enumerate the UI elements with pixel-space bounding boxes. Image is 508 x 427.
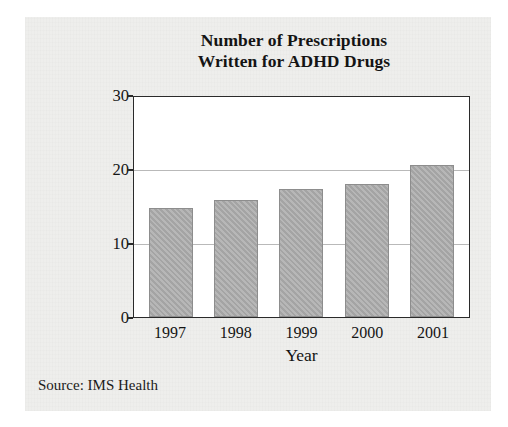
x-axis-title: Year — [133, 345, 470, 366]
x-tick-label-1998: 1998 — [214, 324, 258, 342]
bar-1997 — [149, 208, 193, 317]
y-tick-label-30: 30 — [95, 86, 129, 106]
chart-screenshot: Number of Prescriptions Written for ADHD… — [0, 0, 508, 427]
chart-title-line-2: Written for ADHD Drugs — [108, 51, 480, 72]
y-tick-label-0: 0 — [95, 308, 129, 328]
chart-title-line-1: Number of Prescriptions — [108, 30, 480, 51]
bar-series — [134, 97, 469, 317]
y-tick-label-20: 20 — [95, 160, 129, 180]
x-tick-label-1997: 1997 — [148, 324, 192, 342]
plot-area — [133, 96, 470, 318]
bar-1998 — [214, 200, 258, 317]
y-tick-label-10: 10 — [95, 234, 129, 254]
chart-title: Number of Prescriptions Written for ADHD… — [108, 30, 480, 72]
x-tick-label-1999: 1999 — [279, 324, 323, 342]
x-axis-tick-labels: 1997 1998 1999 2000 2001 — [133, 324, 470, 342]
x-tick-label-2000: 2000 — [345, 324, 389, 342]
bar-1999 — [279, 189, 323, 317]
bar-2000 — [345, 184, 389, 317]
x-tick-label-2001: 2001 — [411, 324, 455, 342]
bar-2001 — [410, 165, 454, 317]
source-attribution: Source: IMS Health — [38, 377, 158, 394]
